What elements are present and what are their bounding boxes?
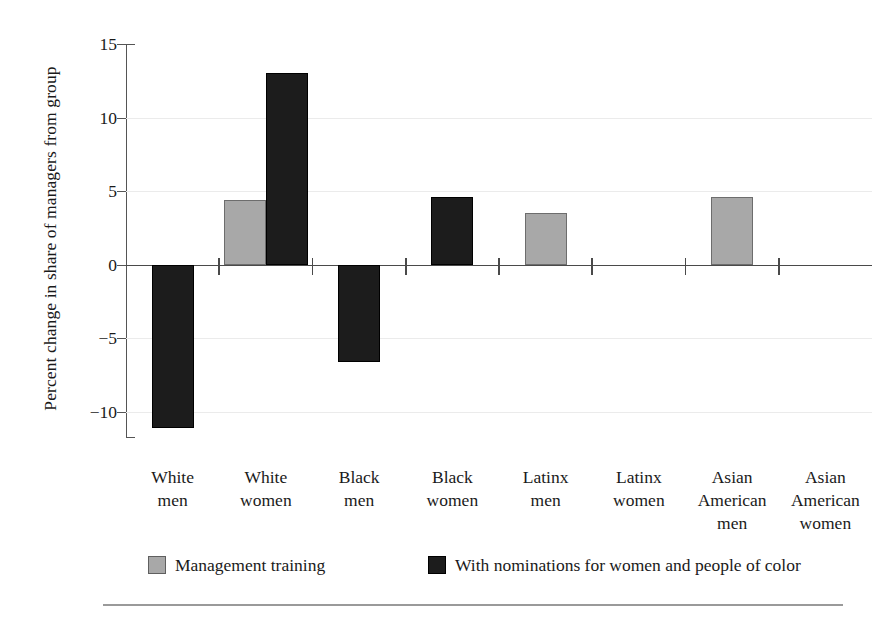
y-axis-title: Percent change in share of managers from…	[40, 29, 61, 449]
legend-swatch-light	[148, 556, 166, 574]
bar-black-men-with-nominations	[338, 265, 380, 362]
legend-label: With nominations for women and people of…	[455, 555, 801, 576]
x-category-label-white-women: Whitewomen	[219, 466, 312, 512]
x-tick-mark	[591, 258, 593, 275]
bar-chart-figure: Percent change in share of managers from…	[0, 0, 879, 624]
bar-white-women-with-nominations	[266, 73, 308, 264]
y-axis-spine	[126, 44, 127, 438]
y-tick-mark	[117, 338, 126, 339]
legend-item-with-nominations[interactable]: With nominations for women and people of…	[428, 552, 801, 578]
x-category-label-latinx-women: Latinxwomen	[592, 466, 685, 512]
y-tick-label: −5	[98, 328, 117, 349]
chart-legend: Management trainingWith nominations for …	[126, 552, 872, 582]
x-axis-labels: WhitemenWhitewomenBlackmenBlackwomenLati…	[126, 466, 872, 546]
x-category-label-asian-american-women: AsianAmericanwomen	[779, 466, 872, 535]
bar-asian-american-men-management-training	[711, 197, 753, 265]
gridline	[126, 338, 872, 339]
x-category-label-latinx-men: Latinxmen	[499, 466, 592, 512]
x-tick-mark	[685, 258, 687, 275]
y-tick-mark	[117, 44, 126, 45]
y-tick-label: 10	[100, 107, 118, 128]
y-tick-label: 0	[108, 254, 117, 275]
legend-swatch-dark	[428, 556, 446, 574]
legend-label: Management training	[175, 555, 325, 576]
x-tick-mark	[498, 258, 500, 275]
y-tick-label: 5	[108, 181, 117, 202]
y-tick-label: 15	[100, 34, 118, 55]
gridline	[126, 412, 872, 413]
gridline	[126, 118, 872, 119]
bar-latinx-men-management-training	[525, 213, 567, 264]
y-tick-mark	[117, 191, 126, 192]
bar-black-women-with-nominations	[431, 197, 473, 265]
y-axis-top-cap	[126, 44, 135, 45]
x-category-label-black-women: Blackwomen	[406, 466, 499, 512]
plot-area: 151050−5−10	[126, 44, 872, 438]
y-tick-mark	[117, 118, 126, 119]
x-tick-mark	[218, 258, 220, 275]
bar-white-women-management-training	[224, 200, 266, 265]
x-tick-mark	[778, 258, 780, 275]
x-category-label-black-men: Blackmen	[313, 466, 406, 512]
gridline	[126, 191, 872, 192]
bar-white-men-with-nominations	[152, 265, 194, 428]
x-tick-mark	[312, 258, 314, 275]
y-tick-label: −10	[90, 401, 117, 422]
x-category-label-white-men: Whitemen	[126, 466, 219, 512]
y-tick-mark	[117, 265, 126, 266]
legend-item-management-training[interactable]: Management training	[148, 552, 325, 578]
x-category-label-asian-american-men: AsianAmericanmen	[686, 466, 779, 535]
footer-rule	[103, 604, 843, 606]
x-tick-mark	[405, 258, 407, 275]
y-tick-mark	[117, 412, 126, 413]
y-axis-bottom-cap	[126, 437, 135, 438]
